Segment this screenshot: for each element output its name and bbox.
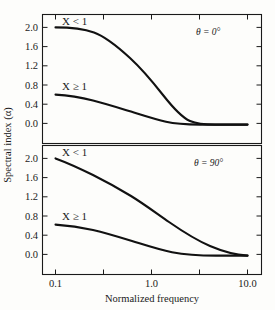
panel-bottom-label-x-lt-1: X < 1 <box>62 146 87 158</box>
panel-top-ytick-0-0: 0.0 <box>25 118 38 129</box>
panel-bottom-ytick-0-8: 0.8 <box>25 211 38 222</box>
figure-container: 2.0 1.6 1.2 0.8 0.4 0.0 X < 1 X ≥ 1 θ = … <box>0 0 275 310</box>
panel-theta-0: 2.0 1.6 1.2 0.8 0.4 0.0 X < 1 X ≥ 1 θ = … <box>25 15 262 144</box>
panel-top-y-ticks <box>43 27 262 123</box>
panel-theta-90: 2.0 1.6 1.2 0.8 0.4 0.0 X < 1 X ≥ 1 θ = … <box>25 146 262 275</box>
panel-top-ytick-0-4: 0.4 <box>25 99 39 110</box>
panel-bottom-ytick-0-0: 0.0 <box>25 249 38 260</box>
curve-bottom-x-lt-1 <box>56 158 248 255</box>
spectral-index-chart: 2.0 1.6 1.2 0.8 0.4 0.0 X < 1 X ≥ 1 θ = … <box>0 0 275 310</box>
xtick-label-10-0: 10.0 <box>238 278 256 289</box>
panel-bottom-x-ticks <box>56 270 248 275</box>
panel-bottom-ytick-0-4: 0.4 <box>25 230 39 241</box>
panel-bottom-ytick-1-2: 1.2 <box>25 191 38 202</box>
curve-top-x-lt-1 <box>56 27 248 124</box>
x-axis: 0.1 1.0 10.0 Normalized frequency <box>49 278 257 304</box>
xtick-label-1-0: 1.0 <box>145 278 158 289</box>
curve-bottom-x-ge-1 <box>56 225 248 256</box>
curve-top-x-ge-1 <box>56 95 248 125</box>
x-axis-title: Normalized frequency <box>105 293 200 304</box>
panel-top-ytick-1-6: 1.6 <box>25 41 38 52</box>
y-axis: Spectral index (α) <box>2 107 14 183</box>
panel-bottom-ytick-1-6: 1.6 <box>25 172 38 183</box>
panel-top-theta-annotation: θ = 0° <box>196 27 221 37</box>
panel-top-ytick-0-8: 0.8 <box>25 80 38 91</box>
panel-bottom-label-x-ge-1: X ≥ 1 <box>62 210 87 222</box>
panel-top-label-x-ge-1: X ≥ 1 <box>62 80 87 92</box>
panel-top-ytick-2-0: 2.0 <box>25 22 38 33</box>
panel-top-ytick-1-2: 1.2 <box>25 60 38 71</box>
xtick-label-0-1: 0.1 <box>49 278 62 289</box>
panel-bottom-theta-annotation: θ = 90° <box>194 158 223 168</box>
panel-bottom-y-ticks <box>43 158 262 254</box>
y-axis-title: Spectral index (α) <box>2 107 14 183</box>
panel-top-label-x-lt-1: X < 1 <box>62 15 87 27</box>
panel-bottom-ytick-2-0: 2.0 <box>25 153 38 164</box>
